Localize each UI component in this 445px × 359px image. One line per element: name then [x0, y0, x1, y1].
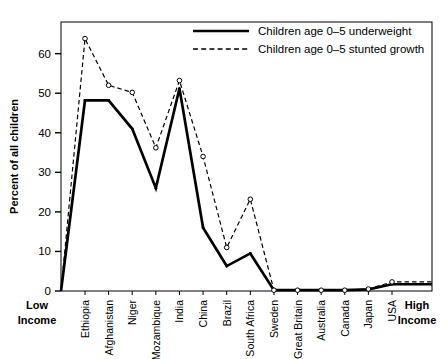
line-chart: 0102030405060 Percent of all children Et…: [0, 0, 445, 359]
data-point-marker: [154, 187, 157, 190]
data-point-marker: [224, 245, 229, 250]
y-axis: 0102030405060: [38, 48, 61, 297]
chart-figure: 0102030405060 Percent of all children Et…: [0, 0, 445, 359]
data-point-marker: [84, 99, 87, 102]
data-point-marker: [83, 36, 88, 41]
data-point-marker: [366, 287, 371, 292]
x-tick-label: Ethiopia: [79, 300, 91, 338]
data-point-marker: [201, 154, 206, 159]
y-tick-label: 10: [38, 245, 51, 257]
x-tick-label: Niger: [126, 299, 138, 325]
x-tick-label: Australia: [315, 300, 327, 341]
y-tick-label: 20: [38, 206, 51, 218]
y-tick-label: 30: [38, 166, 51, 178]
y-tick-label: 60: [38, 48, 51, 60]
legend-label: Children age 0–5 stunted growth: [258, 43, 424, 55]
series-line-solid: [61, 88, 432, 291]
x-tick-label: USA: [386, 300, 398, 322]
data-point-marker: [130, 90, 135, 95]
plot-area-border: [61, 22, 432, 291]
series-line-dashed: [61, 39, 432, 291]
data-point-marker: [249, 252, 252, 255]
data-point-marker: [202, 226, 205, 229]
data-series-group: [61, 36, 432, 292]
data-point-marker: [295, 288, 300, 293]
plot-frame: [61, 22, 432, 291]
data-point-marker: [106, 83, 111, 88]
series-1: [61, 87, 432, 292]
x-tick-label: China: [197, 300, 209, 328]
data-point-marker: [319, 288, 324, 293]
data-point-marker: [131, 127, 134, 130]
data-point-marker: [390, 280, 395, 285]
x-tick-label: South Africa: [244, 300, 256, 357]
x-tick-label: Brazil: [221, 300, 233, 326]
data-point-marker: [248, 197, 253, 202]
legend-label: Children age 0–5 underweight: [258, 25, 412, 37]
x-tick-label: Japan: [362, 300, 374, 329]
data-point-marker: [225, 265, 228, 268]
x-tick-label: Mozambique: [150, 300, 162, 359]
data-point-marker: [177, 78, 182, 83]
data-point-marker: [107, 99, 110, 102]
axis-end-label-low-line2: Income: [18, 314, 57, 326]
y-axis-label: Percent of all children: [8, 99, 20, 214]
x-tick-label: India: [173, 300, 185, 323]
axis-end-label-high-line2: Income: [398, 314, 437, 326]
x-tick-label: Great Britain: [292, 300, 304, 359]
data-point-marker: [154, 146, 159, 151]
data-point-marker: [178, 87, 181, 90]
data-point-marker: [342, 288, 347, 293]
y-axis-title: Percent of all children: [8, 99, 20, 214]
axis-end-label-high-line1: High: [405, 299, 430, 311]
x-tick-label: Sweden: [268, 300, 280, 338]
chart-legend: Children age 0–5 underweightChildren age…: [193, 25, 424, 55]
x-axis: EthiopiaAfghanistanNigerMozambiqueIndiaC…: [18, 291, 437, 359]
x-tick-label: Afghanistan: [103, 300, 115, 356]
y-tick-label: 50: [38, 87, 51, 99]
x-tick-label: Canada: [339, 300, 351, 337]
axis-end-label-low-line1: Low: [26, 299, 48, 311]
y-tick-label: 40: [38, 127, 51, 139]
y-tick-label: 0: [45, 285, 51, 297]
data-point-marker: [272, 288, 277, 293]
